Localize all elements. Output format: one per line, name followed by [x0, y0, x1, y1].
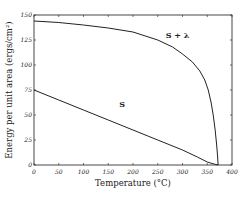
curve-labels: S + λS	[119, 30, 190, 109]
x-tick-label: 250	[151, 168, 164, 175]
y-tick-label: 75	[24, 86, 32, 93]
y-tick-label: 150	[21, 11, 33, 18]
x-axis-title: Temperature (°C)	[95, 178, 171, 188]
x-tick-label: 100	[78, 168, 90, 175]
y-axis-ticks: 0255075100125150	[21, 11, 232, 168]
plot-border	[34, 15, 232, 165]
curve-s-plus-lambda	[34, 21, 218, 165]
y-tick-label: 0	[28, 161, 32, 168]
y-tick-label: 100	[21, 61, 33, 68]
x-tick-label: 350	[202, 168, 214, 175]
x-tick-label: 0	[32, 168, 36, 175]
x-tick-label: 150	[103, 168, 115, 175]
x-tick-label: 200	[126, 168, 139, 175]
x-axis-ticks: 050100150200250300350400	[32, 15, 238, 175]
x-tick-label: 50	[55, 168, 63, 175]
x-tick-label: 300	[177, 168, 189, 175]
curves	[34, 21, 218, 165]
y-tick-label: 125	[21, 36, 33, 43]
y-axis-title: Energy per unit area (ergs/cm²)	[4, 21, 14, 158]
x-tick-label: 400	[225, 168, 238, 175]
curve-s	[34, 90, 218, 165]
plot-frame	[34, 15, 232, 165]
y-tick-label: 50	[24, 111, 32, 118]
chart: 050100150200250300350400 025507510012515…	[0, 0, 248, 197]
y-tick-label: 25	[23, 136, 32, 143]
label-s: S	[119, 99, 125, 109]
label-s-plus-lambda: S + λ	[166, 30, 190, 40]
